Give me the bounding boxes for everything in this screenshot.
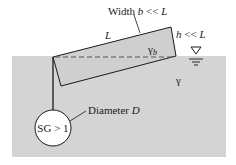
diameter-label: Diameter D bbox=[88, 104, 140, 116]
width-label: Width b << L bbox=[108, 5, 167, 17]
sphere-label: SG > 1 bbox=[37, 122, 68, 134]
fluid-specific-weight-label: γ bbox=[175, 74, 181, 86]
thickness-label: h << L bbox=[176, 28, 206, 40]
width-leader bbox=[134, 15, 140, 33]
buoyant-rod-diagram: Width b << L L h << L γb γ Diameter D SG… bbox=[0, 0, 236, 165]
length-label: L bbox=[104, 29, 111, 41]
